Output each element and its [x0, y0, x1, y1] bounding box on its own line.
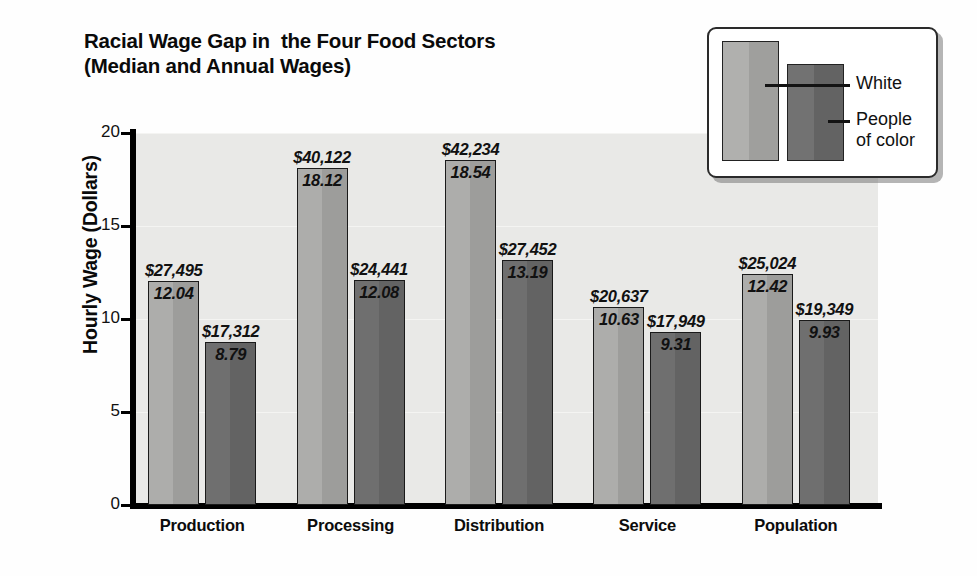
bar-annual-label: $42,234	[442, 140, 500, 159]
legend-leader-line-white	[765, 84, 850, 87]
y-tick-mark	[121, 318, 131, 321]
bar-hourly-label: 13.19	[503, 263, 552, 282]
bar-population-white: 12.42$25,024	[742, 274, 793, 505]
bar-distribution-white: 18.54$42,234	[445, 160, 496, 505]
bar-processing-people-of-color: 12.08$24,441	[354, 280, 405, 505]
legend-leader-line-people-of-color	[828, 120, 850, 123]
bar-service-people-of-color: 9.31$17,949	[650, 332, 701, 505]
bar-annual-label: $19,349	[796, 300, 854, 319]
y-tick-mark	[121, 411, 131, 414]
bar-hourly-label: 18.12	[298, 171, 347, 190]
category-label-distribution: Distribution	[429, 516, 569, 535]
bar-population-people-of-color: 9.93$19,349	[799, 320, 850, 505]
bar-annual-label: $25,024	[739, 254, 797, 273]
bar-annual-label: $27,452	[499, 240, 557, 259]
chart-title-line1: Racial Wage Gap in the Four Food Sectors	[84, 29, 495, 52]
category-label-processing: Processing	[281, 516, 421, 535]
bar-production-people-of-color: 8.79$17,312	[205, 342, 256, 505]
y-tick-label: 10	[80, 308, 120, 328]
bar-distribution-people-of-color: 13.19$27,452	[502, 260, 553, 505]
y-tick-mark	[121, 132, 131, 135]
bar-hourly-label: 9.93	[800, 323, 849, 342]
bar-hourly-label: 9.31	[651, 335, 700, 354]
category-label-service: Service	[577, 516, 717, 535]
y-tick-label: 5	[80, 401, 120, 421]
bar-processing-white: 18.12$40,122	[297, 168, 348, 505]
legend-label-white: White	[856, 73, 902, 94]
bar-annual-label: $27,495	[145, 261, 203, 280]
legend-label-people-of-color: People of color	[856, 109, 915, 151]
bar-hourly-label: 12.08	[355, 283, 404, 302]
chart-legend: White People of color	[707, 27, 938, 178]
bar-annual-label: $17,312	[202, 322, 260, 341]
bar-annual-label: $17,949	[647, 312, 705, 331]
chart-title-line2: (Median and Annual Wages)	[84, 53, 704, 78]
y-tick-mark	[121, 225, 131, 228]
bar-service-white: 10.63$20,637	[593, 307, 644, 505]
legend-swatch-white	[722, 41, 779, 161]
y-tick-label: 20	[80, 122, 120, 142]
category-label-population: Population	[726, 516, 866, 535]
y-axis-ticks: 05101520	[68, 0, 120, 576]
bar-hourly-label: 10.63	[594, 310, 643, 329]
bar-hourly-label: 12.42	[743, 277, 792, 296]
y-tick-label: 0	[80, 494, 120, 514]
bar-annual-label: $24,441	[350, 260, 408, 279]
bar-production-white: 12.04$27,495	[148, 281, 199, 505]
bar-annual-label: $40,122	[293, 148, 351, 167]
chart-figure: Racial Wage Gap in the Four Food Sectors…	[0, 0, 977, 576]
y-tick-label: 15	[80, 215, 120, 235]
category-label-production: Production	[132, 516, 272, 535]
bar-annual-label: $20,637	[590, 287, 648, 306]
chart-title: Racial Wage Gap in the Four Food Sectors…	[84, 28, 704, 78]
legend-swatch-people-of-color	[787, 64, 844, 161]
bar-hourly-label: 18.54	[446, 163, 495, 182]
bar-hourly-label: 12.04	[149, 284, 198, 303]
gridline	[136, 226, 878, 227]
bar-hourly-label: 8.79	[206, 345, 255, 364]
y-tick-mark	[121, 504, 131, 507]
